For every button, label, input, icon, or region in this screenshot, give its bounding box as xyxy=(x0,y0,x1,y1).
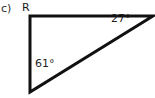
vertex-label-r: R xyxy=(22,2,30,13)
triangle-diagram xyxy=(0,0,155,98)
angle-label-27-degrees: 27° xyxy=(111,13,131,24)
part-label: c) xyxy=(1,3,11,14)
figure-container: c) R 27° 61° xyxy=(0,0,155,98)
angle-label-61-degrees: 61° xyxy=(35,58,55,69)
triangle-shape xyxy=(30,16,153,92)
